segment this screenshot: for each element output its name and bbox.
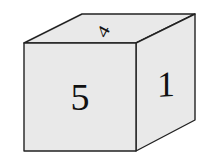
front-face-label: 5 <box>71 76 90 118</box>
cube-diagram: 4 5 1 <box>0 0 207 159</box>
right-face-label: 1 <box>157 64 175 105</box>
